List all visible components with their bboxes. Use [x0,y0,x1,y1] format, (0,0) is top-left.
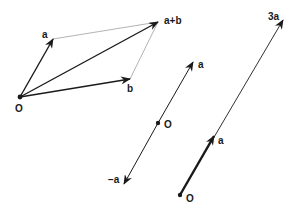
scaling-figure: O a 3a [178,11,283,204]
vector-a-arrow [158,62,193,123]
origin-label: O [164,119,172,130]
vector-a-label: a [198,59,204,70]
vector-neg-a-arrow [124,123,158,184]
vector-3a-label: 3a [268,11,280,22]
origin-point [178,193,182,197]
guide-line-b-to-sum [130,22,158,79]
negative-a-label: −a [108,174,120,185]
negation-figure: O a −a [108,59,204,185]
sum-label: a+b [164,15,182,26]
vector-a-label: a [42,29,48,40]
origin-label: O [15,103,23,114]
origin-point [18,95,23,100]
vector-a-arrow [180,136,214,195]
origin-label: O [186,193,194,204]
parallelogram-figure: O a b a+b [15,15,182,114]
vector-b-label: b [127,83,133,94]
vector-a-label: a [218,135,224,146]
vector-diagram: O a b a+b O a −a O a 3a [0,0,297,209]
origin-point [156,121,160,125]
